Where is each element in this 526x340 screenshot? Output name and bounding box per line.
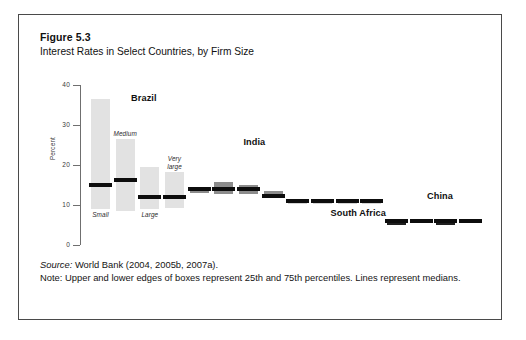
box-plot-item[interactable] xyxy=(190,187,209,194)
figure-title: Interest Rates in Select Countries, by F… xyxy=(40,45,470,59)
median-line xyxy=(188,187,211,191)
source-line: Source: World Bank (2004, 2005b, 2007a). xyxy=(40,258,482,271)
box-iqr xyxy=(140,167,159,209)
box-plot-item[interactable] xyxy=(165,172,184,208)
box-plot-item[interactable] xyxy=(140,167,159,209)
box-size-label: Small xyxy=(83,211,118,219)
group-label-china: China xyxy=(400,191,480,201)
box-size-label: Very large xyxy=(157,155,192,170)
box-plot-item[interactable] xyxy=(116,139,135,211)
box-iqr xyxy=(91,99,110,209)
median-line xyxy=(434,219,457,223)
group-label-south-africa: South Africa xyxy=(318,208,398,218)
box-plot-item[interactable] xyxy=(436,219,455,225)
box-iqr xyxy=(116,139,135,211)
figure-footer: Source: World Bank (2004, 2005b, 2007a).… xyxy=(40,258,482,284)
group-label-india: India xyxy=(214,137,294,147)
median-line xyxy=(237,187,260,191)
box-plot-item[interactable] xyxy=(338,199,357,205)
median-line xyxy=(138,195,161,199)
median-line xyxy=(311,199,334,203)
median-line xyxy=(89,183,112,187)
source-label: Source: xyxy=(40,259,72,270)
box-plot-item[interactable] xyxy=(387,219,406,225)
median-line xyxy=(163,195,186,199)
box-iqr xyxy=(165,172,184,208)
group-label-brazil: Brazil xyxy=(104,93,184,103)
median-line xyxy=(212,187,235,191)
box-plot-item[interactable] xyxy=(239,185,258,194)
note-line: Note: Upper and lower edges of boxes rep… xyxy=(40,271,482,284)
source-text: World Bank (2004, 2005b, 2007a). xyxy=(72,259,218,270)
box-plot-item[interactable] xyxy=(461,220,480,222)
box-plot-item[interactable] xyxy=(412,219,431,223)
median-line xyxy=(336,199,359,203)
median-line xyxy=(459,219,482,223)
title-block: Figure 5.3 Interest Rates in Select Coun… xyxy=(40,31,470,59)
median-line xyxy=(360,199,383,203)
median-line xyxy=(262,194,285,198)
box-series-layer xyxy=(40,81,482,251)
median-line xyxy=(286,199,309,203)
box-plot-item[interactable] xyxy=(288,199,307,204)
box-plot-item[interactable] xyxy=(214,182,233,194)
figure-number: Figure 5.3 xyxy=(40,31,470,44)
box-plot-item[interactable] xyxy=(264,191,283,199)
median-line xyxy=(385,219,408,223)
figure-card: Figure 5.3 Interest Rates in Select Coun… xyxy=(18,14,502,320)
median-line xyxy=(114,178,137,182)
box-plot-item[interactable] xyxy=(313,199,332,205)
median-line xyxy=(410,219,433,223)
box-size-label: Medium xyxy=(108,130,143,138)
box-plot-item[interactable] xyxy=(91,99,110,209)
box-size-label: Large xyxy=(132,211,167,219)
box-plot-item[interactable] xyxy=(362,199,381,205)
box-plot-chart: Percent 010203040 SmallMediumLargeVery l… xyxy=(40,81,482,251)
